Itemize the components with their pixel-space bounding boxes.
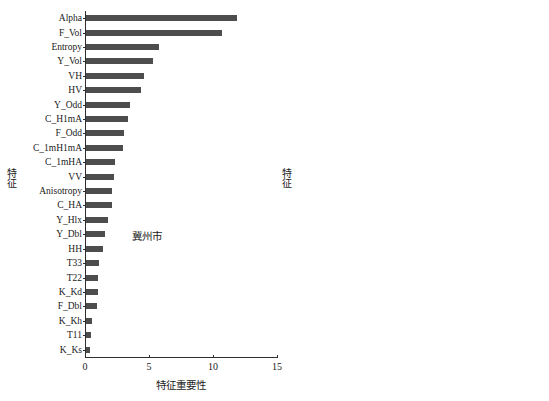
bar-row: VV xyxy=(86,171,277,183)
y-tick-mark xyxy=(83,335,86,336)
y-tick-mark xyxy=(83,133,86,134)
y-tick-mark xyxy=(83,33,86,34)
bar-row: C_1mHA xyxy=(86,156,277,168)
x-axis-line-left xyxy=(85,357,277,358)
bar-row: K_Kh xyxy=(86,315,277,327)
bar xyxy=(86,102,130,108)
bar xyxy=(86,15,237,21)
plot-area-left: AlphaF_VolEntropyY_VolVHHVY_OddC_H1mAF_O… xyxy=(85,11,277,358)
y-axis-title-left: 特征 xyxy=(2,168,16,188)
bar-row: K_Ks xyxy=(86,344,277,356)
bar-row: C_H1mA xyxy=(86,113,277,125)
chart-panel-left: 特征 AlphaF_VolEntropyY_VolVHHVY_OddC_H1mA… xyxy=(0,0,275,401)
category-label: Y_Dbl xyxy=(56,229,82,239)
category-label: C_1mH1mA xyxy=(33,143,82,153)
category-label: VH xyxy=(68,71,82,81)
y-tick-mark xyxy=(83,148,86,149)
bar xyxy=(86,347,90,353)
bar-row: T33 xyxy=(86,257,277,269)
y-tick-mark xyxy=(83,90,86,91)
bar-row: Y_Hlx xyxy=(86,214,277,226)
x-tick-label: 10 xyxy=(208,361,218,372)
x-tick-mark xyxy=(213,355,214,358)
bar-row: F_Vol xyxy=(86,27,277,39)
bar-rows-left: AlphaF_VolEntropyY_VolVHHVY_OddC_H1mAF_O… xyxy=(86,11,277,357)
bar xyxy=(86,231,105,237)
y-tick-mark xyxy=(83,263,86,264)
category-label: K_Ks xyxy=(60,345,82,355)
bar-row: T22 xyxy=(86,272,277,284)
bar-row: Y_Vol xyxy=(86,55,277,67)
bar xyxy=(86,332,91,338)
bar xyxy=(86,303,97,309)
bar-row: Entropy xyxy=(86,41,277,53)
category-label: T22 xyxy=(67,273,82,283)
x-tick-mark xyxy=(85,355,86,358)
x-axis-title-left: 特征重要性 xyxy=(85,377,277,392)
category-label: Anisotropy xyxy=(39,186,82,196)
y-tick-mark xyxy=(83,177,86,178)
bar xyxy=(86,116,128,122)
category-label: T33 xyxy=(67,258,82,268)
bar xyxy=(86,130,124,136)
bar-row: T11 xyxy=(86,329,277,341)
category-label: Y_Odd xyxy=(54,100,82,110)
bar xyxy=(86,202,112,208)
y-axis-title-right: 特征 xyxy=(277,168,291,188)
category-label: F_Odd xyxy=(56,128,82,138)
bar-row: Anisotropy xyxy=(86,185,277,197)
bar-row: C_1mH1mA xyxy=(86,142,277,154)
bar-row: C_HA xyxy=(86,199,277,211)
category-label: Y_Vol xyxy=(57,56,82,66)
bar-row: F_Dbl xyxy=(86,300,277,312)
bar xyxy=(86,174,114,180)
category-label: VV xyxy=(68,172,82,182)
bar-row: HV xyxy=(86,84,277,96)
bar xyxy=(86,217,108,223)
x-tick-label: 0 xyxy=(83,361,88,372)
x-tick-mark xyxy=(149,355,150,358)
bar-row: Y_Dbl xyxy=(86,228,277,240)
x-tick-label: 5 xyxy=(147,361,152,372)
y-tick-mark xyxy=(83,47,86,48)
panel-annotation-left: 冀州市 xyxy=(132,228,162,243)
category-label: HH xyxy=(68,244,82,254)
bar-row: K_Kd xyxy=(86,286,277,298)
y-tick-mark xyxy=(83,61,86,62)
bar xyxy=(86,260,99,266)
bar-row: F_Odd xyxy=(86,127,277,139)
y-tick-mark xyxy=(83,162,86,163)
category-label: K_Kh xyxy=(59,316,82,326)
y-tick-mark xyxy=(83,105,86,106)
bar-row: HH xyxy=(86,243,277,255)
bar xyxy=(86,44,159,50)
bar xyxy=(86,87,141,93)
category-label: C_HA xyxy=(57,200,82,210)
bar xyxy=(86,188,112,194)
y-tick-mark xyxy=(83,18,86,19)
bar xyxy=(86,159,115,165)
bar xyxy=(86,58,153,64)
bar xyxy=(86,289,98,295)
category-label: HV xyxy=(68,85,82,95)
y-tick-mark xyxy=(83,205,86,206)
category-label: Alpha xyxy=(59,13,82,23)
category-label: K_Kd xyxy=(59,287,82,297)
y-tick-mark xyxy=(83,321,86,322)
bar xyxy=(86,246,103,252)
category-label: F_Vol xyxy=(59,28,82,38)
bar-row: VH xyxy=(86,70,277,82)
y-tick-mark xyxy=(83,350,86,351)
bar xyxy=(86,275,98,281)
category-label: C_H1mA xyxy=(45,114,82,124)
y-tick-mark xyxy=(83,292,86,293)
bar-row: Y_Odd xyxy=(86,99,277,111)
y-tick-mark xyxy=(83,191,86,192)
category-label: Y_Hlx xyxy=(56,215,82,225)
y-tick-mark xyxy=(83,76,86,77)
y-tick-mark xyxy=(83,278,86,279)
y-tick-mark xyxy=(83,306,86,307)
y-tick-mark xyxy=(83,249,86,250)
figure-two-panel-bar-charts: 特征 AlphaF_VolEntropyY_VolVHHVY_OddC_H1mA… xyxy=(0,0,549,401)
bar xyxy=(86,318,92,324)
